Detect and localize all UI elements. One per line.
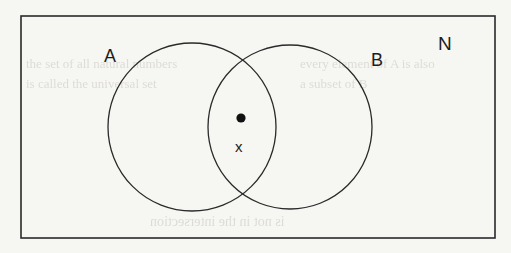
set-a-circle [108, 43, 276, 211]
venn-diagram-figure: the set of all natural numbers is called… [0, 0, 511, 253]
universal-set-label: N [438, 34, 452, 53]
set-a-label: A [104, 47, 116, 65]
venn-diagram-canvas [0, 0, 511, 253]
universal-set-rectangle [21, 16, 495, 238]
set-b-label: B [371, 51, 383, 69]
set-b-circle [208, 45, 372, 209]
element-x-dot [236, 113, 245, 122]
element-x-label: x [235, 139, 243, 154]
